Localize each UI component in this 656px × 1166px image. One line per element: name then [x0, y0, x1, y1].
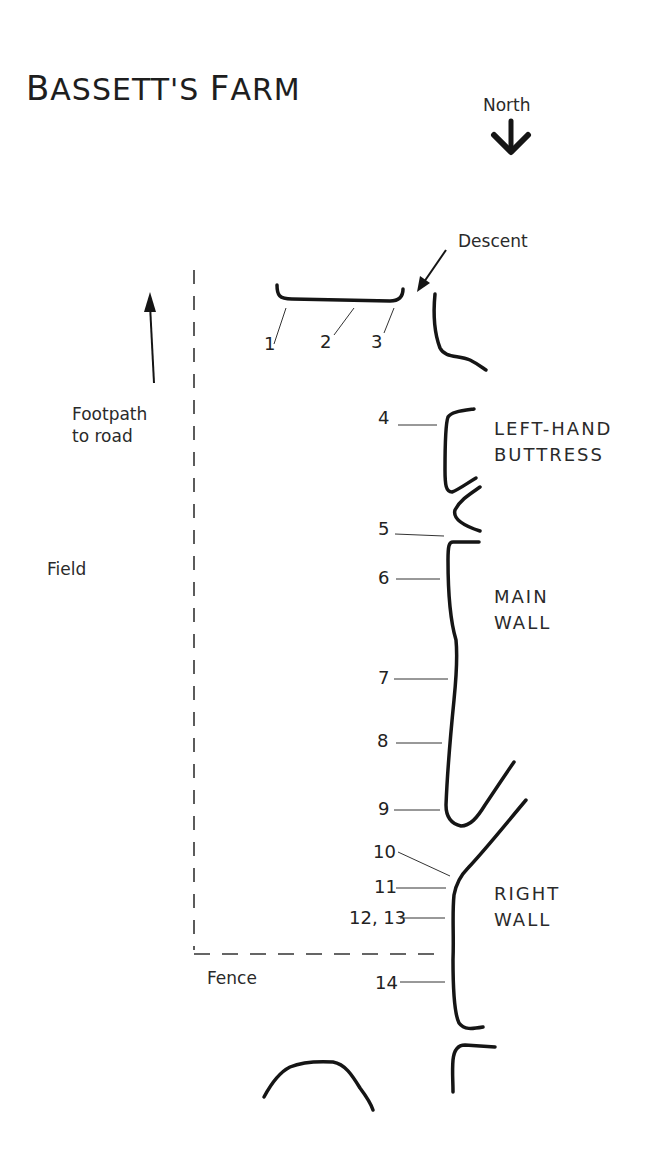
route-number-11: 11	[374, 878, 397, 896]
route-number-10: 10	[373, 843, 396, 861]
descent-rock-outline	[434, 294, 486, 370]
route-number-5: 5	[378, 520, 389, 538]
route-number-8: 8	[377, 732, 388, 750]
route-number-3: 3	[371, 333, 382, 351]
field-label: Field	[47, 561, 86, 578]
north-label: North	[483, 97, 531, 114]
route-number-2: 2	[320, 333, 331, 351]
route-number-14: 14	[375, 974, 398, 992]
section-label-line1: MAIN	[494, 584, 551, 610]
route-number-1: 1	[264, 335, 275, 353]
route-number-9: 9	[378, 800, 389, 818]
arrow-down-icon	[494, 121, 528, 152]
top-crag-outline	[277, 285, 403, 301]
route-number-4: 4	[378, 409, 389, 427]
section-label-line1: RIGHT	[494, 881, 560, 907]
section-right-wall: RIGHT WALL	[494, 881, 560, 933]
gully-outline	[455, 487, 480, 531]
section-label-line2: WALL	[494, 610, 551, 636]
route-leader-lines	[274, 308, 450, 982]
boulder-outline	[264, 1062, 373, 1110]
section-label-line2: WALL	[494, 907, 560, 933]
section-main-wall: MAIN WALL	[494, 584, 551, 636]
descent-label: Descent	[458, 233, 528, 250]
map-title: BASSETT'S FARM	[26, 71, 301, 105]
fence-label: Fence	[207, 970, 257, 987]
route-number-12-13: 12, 13	[349, 909, 406, 927]
footpath-label: Footpath to road	[72, 403, 147, 447]
left-hand-buttress-outline	[445, 409, 476, 492]
route-number-7: 7	[378, 669, 389, 687]
section-label-line1: LEFT-HAND	[494, 416, 612, 442]
section-left-hand-buttress: LEFT-HAND BUTTRESS	[494, 416, 612, 468]
footpath-arrow-icon	[144, 292, 156, 383]
crag-diagram	[0, 0, 656, 1166]
section-label-line2: BUTTRESS	[494, 442, 612, 468]
route-number-6: 6	[378, 569, 389, 587]
bottom-right-rock-outline	[453, 1045, 495, 1092]
footpath-label-line1: Footpath	[72, 403, 147, 425]
descent-arrow-icon	[417, 250, 446, 292]
footpath-label-line2: to road	[72, 425, 147, 447]
